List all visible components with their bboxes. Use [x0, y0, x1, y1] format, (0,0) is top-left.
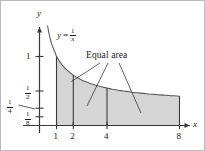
fraction-denominator: 4 [7, 107, 13, 115]
fraction-numerator: 1 [70, 28, 76, 35]
x-tick-label-8: 8 [177, 132, 182, 141]
y-tick-label-one-quarter: 1 4 [7, 98, 13, 115]
fraction-denominator: x [70, 35, 76, 43]
fraction-numerator: 1 [25, 85, 31, 92]
fraction-numerator: 1 [7, 99, 13, 106]
fraction-denominator: 8 [25, 119, 31, 127]
fraction-one-quarter: 1 4 [7, 99, 13, 115]
y-axis-label: y [37, 9, 41, 18]
fraction-denominator: 2 [25, 93, 31, 101]
x-tick-label-2: 2 [70, 132, 75, 141]
y-tick-label-one-half: 1 2 [25, 84, 31, 101]
x-axis-label: x [193, 120, 197, 129]
fraction-one-half: 1 2 [25, 85, 31, 101]
x-tick-label-4: 4 [104, 132, 109, 141]
curve-equation-label: y= 1 x [57, 28, 76, 44]
hyperbola-equal-area-figure: y x 1 1 2 1 4 1 8 1 2 4 8 y= 1 x Equal a… [0, 0, 205, 151]
y-tick-label-one-eighth: 1 8 [25, 110, 31, 127]
fraction-numerator: 1 [25, 111, 31, 118]
fraction-one-over-x: 1 x [70, 28, 76, 44]
y-axis-arrowhead [37, 27, 42, 33]
x-axis-arrowhead [185, 123, 191, 128]
plot-canvas [1, 1, 205, 151]
fraction-one-eighth: 1 8 [25, 111, 31, 127]
shaded-area-region [57, 57, 180, 126]
x-tick-label-1: 1 [54, 132, 59, 141]
quarter-leader-line [19, 105, 36, 109]
equal-area-leader-region1 [72, 63, 101, 82]
equal-area-label: Equal area [86, 51, 127, 61]
equation-equals-sign: = [61, 30, 70, 40]
y-tick-label-1: 1 [26, 52, 31, 61]
